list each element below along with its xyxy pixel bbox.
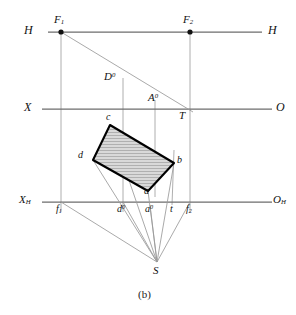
label-A0-letter: A	[148, 91, 155, 103]
figure-canvas	[0, 0, 296, 315]
descriptive-geometry-figure: H H X O XH OH F1 F2 D0 A0 T c d b a f1 d…	[0, 0, 296, 315]
label-f1-subscript: 1	[59, 207, 62, 214]
label-F1-letter: F	[54, 13, 61, 25]
label-c: c	[106, 112, 110, 122]
label-XH-subscript: H	[26, 198, 31, 205]
label-H-left: H	[24, 24, 33, 36]
label-D0-letter: D	[104, 70, 112, 82]
label-t: t	[170, 204, 173, 214]
label-X-left: X	[24, 101, 31, 113]
point-dot-F2	[187, 29, 192, 34]
label-OH-letter: O	[273, 193, 281, 205]
label-OH-right: OH	[273, 194, 286, 206]
label-A0-superscript: 0	[155, 92, 158, 99]
vertical-through-b	[172, 150, 174, 205]
label-F1: F1	[54, 14, 64, 26]
label-T: T	[179, 110, 185, 121]
label-O-right: O	[276, 101, 285, 113]
ray-f1-to-S	[61, 202, 157, 262]
label-d: d	[78, 150, 83, 160]
label-f1: f1	[56, 204, 62, 214]
point-dot-F1	[58, 29, 63, 34]
label-F2: F2	[183, 14, 193, 26]
label-F1-subscript: 1	[61, 18, 64, 25]
label-f2: f2	[186, 204, 192, 214]
label-a0-superscript: 0	[150, 203, 153, 210]
label-b: b	[177, 155, 182, 165]
label-D0: D0	[104, 71, 115, 82]
label-OH-subscript: H	[281, 198, 286, 205]
label-F2-subscript: 2	[190, 18, 193, 25]
label-F2-letter: F	[183, 13, 190, 25]
label-XH-left: XH	[19, 194, 31, 206]
label-f2-subscript: 2	[189, 207, 192, 214]
shaded-parallelogram	[93, 125, 174, 191]
label-S: S	[153, 265, 159, 276]
label-a0: a0	[145, 204, 153, 214]
ray-F1-to-T	[61, 32, 193, 112]
label-A0: A0	[148, 92, 158, 103]
label-H-right: H	[268, 24, 277, 36]
label-d0: d0	[117, 204, 125, 214]
label-XH-letter: X	[19, 193, 26, 205]
label-D0-superscript: 0	[112, 71, 115, 78]
label-a: a	[144, 186, 149, 196]
figure-caption: (b)	[138, 289, 151, 300]
label-d0-superscript: 0	[122, 203, 125, 210]
